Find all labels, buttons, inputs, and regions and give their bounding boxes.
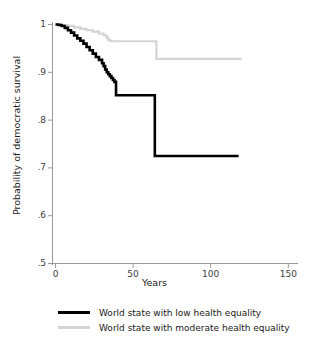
y-tick-label-06: .6 bbox=[20, 211, 46, 220]
y-tick-label-05: .5 bbox=[20, 259, 46, 268]
series-line-low-health-equality bbox=[56, 25, 239, 156]
legend-item-low-health-equality: World state with low health equality bbox=[0, 305, 309, 320]
y-tick-label-07: .7 bbox=[20, 163, 46, 172]
data-series-group bbox=[56, 25, 242, 156]
y-tick-label-09: .9 bbox=[20, 68, 46, 77]
x-axis-title: Years bbox=[0, 277, 309, 288]
legend-swatch-moderate-health-equality bbox=[58, 326, 90, 328]
x-axis-ticks bbox=[56, 264, 289, 269]
legend-swatch-low-health-equality bbox=[58, 311, 90, 314]
legend-label-moderate-health-equality: World state with moderate health equalit… bbox=[99, 323, 290, 333]
y-axis-title: Probability of democratic survival bbox=[11, 36, 22, 236]
chart-legend: World state with low health equality Wor… bbox=[0, 305, 309, 335]
y-tick-label-1: 1 bbox=[20, 20, 46, 29]
legend-label-low-health-equality: World state with low health equality bbox=[99, 308, 261, 318]
y-tick-label-08: .8 bbox=[20, 116, 46, 125]
chart-canvas bbox=[0, 0, 309, 352]
survival-chart-figure: 1 .9 .8 .7 .6 .5 0 50 100 150 Probabilit… bbox=[0, 0, 309, 352]
legend-item-moderate-health-equality: World state with moderate health equalit… bbox=[0, 320, 309, 335]
y-axis-ticks bbox=[48, 25, 53, 264]
